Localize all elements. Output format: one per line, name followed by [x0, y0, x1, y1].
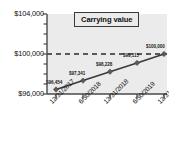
- data-point-marker: [161, 51, 166, 56]
- legend-carrying-value: Carrying value: [74, 12, 139, 27]
- carrying-value-chart: $104,000 $100,000 $96,000 $96,454 $97,34…: [0, 0, 169, 142]
- data-point-marker: [134, 60, 139, 65]
- data-point-marker: [107, 69, 112, 74]
- data-label-point-3: $98,228: [96, 62, 112, 67]
- y-axis-tick-label-104000: $104,000: [14, 10, 44, 18]
- data-label-point-4: $99,115: [123, 53, 139, 58]
- y-axis-tick-label-100000: $100,000: [14, 50, 44, 58]
- data-label-point-5: $100,000: [146, 44, 165, 49]
- data-label-point-2: $97,341: [69, 71, 85, 76]
- y-axis-tick-label-96000: $96,000: [18, 90, 44, 98]
- data-label-point-1: $96,454: [46, 80, 62, 85]
- data-point-marker: [80, 78, 85, 83]
- y-axis: $104,000 $100,000 $96,000: [0, 0, 44, 142]
